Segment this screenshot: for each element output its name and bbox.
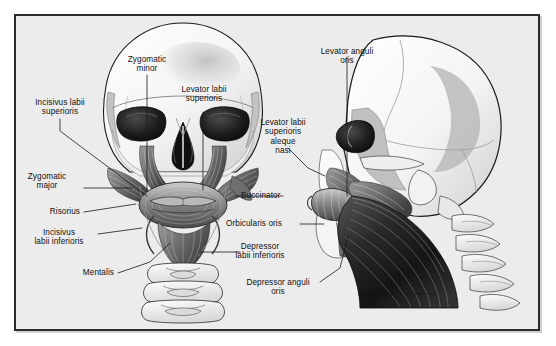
label-zygomatic-major: Zygomatic major [14,172,80,191]
label-levator-labii-superioris: Levator labii superioris [162,85,246,104]
orbit-right [200,107,249,141]
label-incisivus-labii-inferioris: Incisivus labii inferioris [24,228,94,247]
label-depressor-labii-inferioris: Depressor labii inferioris [218,242,302,261]
orbit-lateral [336,121,374,153]
cervical-vertebrae-lateral [452,214,520,310]
label-incisivus-labii-superioris: Incisivus labii superioris [18,98,102,117]
label-zygomatic-minor: Zygomatic minor [106,55,188,74]
label-levator-labii-superioris-aleque-nasi: Levator labii superioris aleque nasi [246,118,320,156]
orbit-left [117,107,166,141]
label-depressor-anguli-oris: Depressor anguli oris [232,278,324,297]
label-buccinator: Buccinator [241,191,311,200]
muscle-orbicularis-oris [139,182,227,228]
leader-incisivus-labii-inferioris [98,228,142,234]
label-platysma: Platysma [358,289,420,298]
label-orbicularis-oris: Orbicularis oris [226,219,306,228]
lateral-skull-view [308,36,521,310]
label-risorius: Risorius [18,207,80,216]
label-levator-anguli-oris: Levator anguli oris [304,47,390,66]
cervical-vertebrae-anterior [142,263,225,323]
anatomy-figure: Zygomatic minor Levator labii superioris… [0,0,556,346]
label-mentalis: Mentalis [52,268,114,277]
leader-risorius [84,204,136,212]
